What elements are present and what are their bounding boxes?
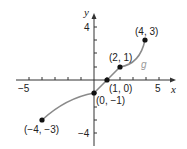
point-1-0 [104,77,109,82]
point-label-m4-m3: (−4, −3) [24,124,59,135]
x-axis [16,77,176,83]
y-axis-label: y [83,6,89,18]
point-label-0-m1: (0, −1) [96,95,125,106]
x-axis-label: x [170,83,176,95]
function-graph: y x −5 5 4 −4 (−4, −3) (0, −1) (1, 0) (2… [0,0,187,149]
point-4-3 [142,37,147,42]
point-2-1 [117,64,122,69]
y-axis-arrow-icon [92,13,97,19]
point-label-2-1: (2, 1) [109,52,132,63]
function-label-g: g [141,59,147,70]
point-label-4-3: (4, 3) [135,26,158,37]
y-tick-label-neg4: −4 [78,128,90,139]
y-tick-label-4: 4 [84,22,90,33]
x-axis-arrow-icon [170,78,176,83]
point-m4-m3 [39,117,44,122]
x-tick-label-neg5: −5 [18,83,30,94]
x-tick-label-5: 5 [155,83,161,94]
point-label-1-0: (1, 0) [109,83,132,94]
